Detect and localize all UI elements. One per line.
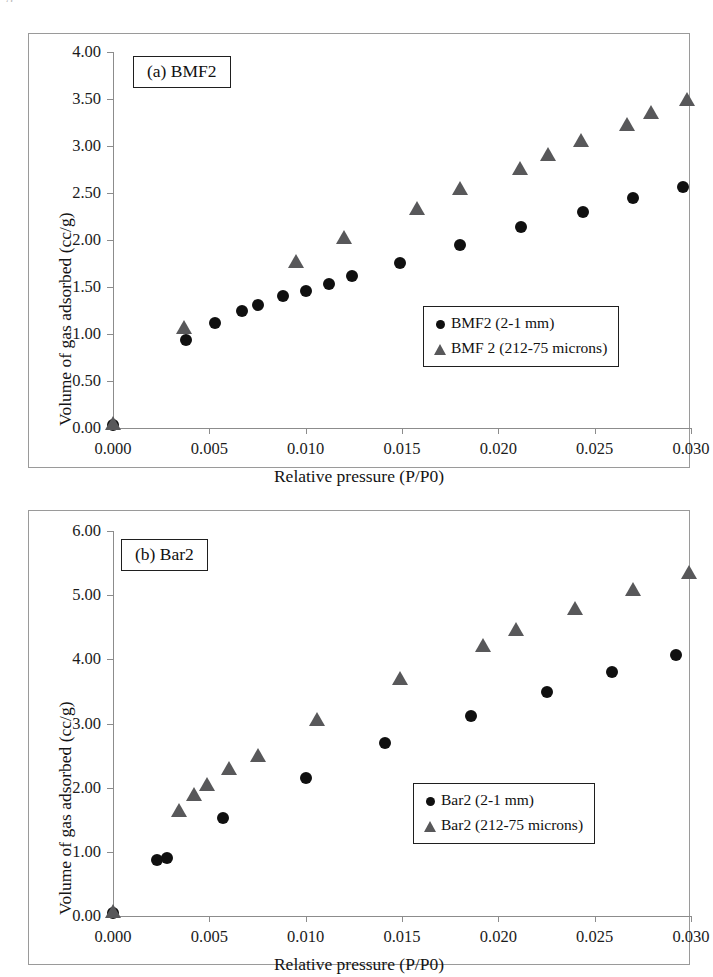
x-tick-label-a-6: 0.030	[651, 441, 713, 458]
x-tick-b-4	[498, 916, 499, 922]
x-tick-label-a-0: 0.000	[73, 441, 153, 458]
triangle-glyph-icon	[424, 821, 436, 832]
circle-glyph-icon	[426, 797, 435, 806]
x-tick-label-a-3: 0.015	[362, 441, 442, 458]
x-tick-label-b-0: 0.000	[73, 929, 153, 946]
x-tick-b-2	[306, 916, 307, 922]
y-tick-label-b-4: 4.00	[43, 651, 101, 668]
data-point-a-s0	[323, 278, 335, 290]
data-point-a-s1	[452, 181, 468, 195]
legend-b: Bar2 (2-1 mm)Bar2 (212-75 microns)	[413, 783, 595, 844]
y-tick-b-2	[107, 788, 113, 789]
legend-item-a-0: BMF2 (2-1 mm)	[432, 312, 607, 334]
x-tick-a-2	[306, 428, 307, 434]
data-point-b-s0	[606, 666, 618, 678]
legend-label-b-1: Bar2 (212-75 microns)	[441, 814, 583, 836]
legend-a: BMF2 (2-1 mm)BMF 2 (212-75 microns)	[423, 306, 619, 367]
data-point-a-s0	[209, 317, 221, 329]
data-point-b-s1	[221, 761, 237, 775]
triangle-glyph-icon	[434, 344, 446, 355]
y-tick-b-1	[107, 852, 113, 853]
data-point-b-s1	[105, 904, 121, 918]
data-point-a-s1	[409, 201, 425, 215]
data-point-a-s0	[346, 270, 358, 282]
data-point-b-s1	[392, 671, 408, 685]
y-tick-a-1	[107, 381, 113, 382]
chart-panel-a: 0.000.501.001.502.002.503.003.504.000.00…	[28, 33, 690, 468]
data-point-b-s0	[161, 852, 173, 864]
y-tick-a-2	[107, 334, 113, 335]
data-point-a-s1	[176, 320, 192, 334]
y-tick-a-8	[107, 52, 113, 53]
data-point-b-s1	[199, 777, 215, 791]
circle-marker-icon	[432, 312, 448, 334]
x-tick-label-b-3: 0.015	[362, 929, 442, 946]
y-tick-label-b-5: 5.00	[43, 587, 101, 604]
data-point-b-s1	[309, 712, 325, 726]
data-point-a-s1	[679, 92, 695, 106]
y-tick-b-6	[107, 531, 113, 532]
x-tick-label-a-4: 0.020	[458, 441, 538, 458]
plot-area-b: 0.001.002.003.004.005.006.000.0000.0050.…	[29, 511, 689, 964]
data-point-a-s0	[454, 239, 466, 251]
data-point-a-s0	[277, 290, 289, 302]
x-tick-b-3	[402, 916, 403, 922]
y-axis-line-b	[113, 531, 114, 916]
x-tick-b-6	[691, 916, 692, 922]
x-tick-a-5	[595, 428, 596, 434]
x-tick-a-4	[498, 428, 499, 434]
x-tick-a-3	[402, 428, 403, 434]
x-tick-label-b-6: 0.030	[651, 929, 713, 946]
page-top-text-fragment: g	[0, 0, 713, 2]
triangle-marker-icon	[432, 337, 448, 359]
legend-item-a-1: BMF 2 (212-75 microns)	[432, 337, 607, 359]
y-tick-b-4	[107, 659, 113, 660]
x-tick-label-a-5: 0.025	[555, 441, 635, 458]
y-tick-label-a-8: 4.00	[43, 44, 101, 61]
data-point-b-s0	[379, 737, 391, 749]
data-point-a-s0	[236, 305, 248, 317]
y-tick-label-a-7: 3.50	[43, 91, 101, 108]
panel-label-box-a: (a) BMF2	[133, 56, 231, 88]
y-tick-a-5	[107, 193, 113, 194]
legend-label-a-0: BMF2 (2-1 mm)	[451, 312, 554, 334]
data-point-b-s1	[567, 601, 583, 615]
y-tick-a-4	[107, 240, 113, 241]
y-tick-a-3	[107, 287, 113, 288]
data-point-a-s1	[643, 105, 659, 119]
data-point-b-s1	[250, 748, 266, 762]
x-tick-a-1	[209, 428, 210, 434]
circle-glyph-icon	[436, 320, 445, 329]
x-tick-label-b-1: 0.005	[169, 929, 249, 946]
data-point-b-s0	[670, 649, 682, 661]
data-point-a-s0	[252, 299, 264, 311]
data-point-a-s1	[573, 133, 589, 147]
x-tick-label-b-5: 0.025	[555, 929, 635, 946]
y-tick-a-7	[107, 99, 113, 100]
x-tick-b-1	[209, 916, 210, 922]
data-point-a-s1	[619, 117, 635, 131]
legend-label-a-1: BMF 2 (212-75 microns)	[451, 337, 607, 359]
y-tick-label-a-5: 2.50	[43, 185, 101, 202]
y-axis-title-a: Volume of gas adsorbed (cc/g)	[55, 212, 76, 426]
x-tick-label-b-2: 0.010	[266, 929, 346, 946]
y-tick-b-5	[107, 595, 113, 596]
y-tick-a-6	[107, 146, 113, 147]
data-point-a-s0	[180, 334, 192, 346]
legend-label-b-0: Bar2 (2-1 mm)	[441, 789, 534, 811]
y-axis-line-a	[113, 52, 114, 428]
y-axis-title-b: Volume of gas adsorbed (cc/g)	[55, 701, 76, 915]
data-point-b-s0	[465, 710, 477, 722]
x-tick-label-b-4: 0.020	[458, 929, 538, 946]
legend-item-b-1: Bar2 (212-75 microns)	[422, 814, 583, 836]
y-tick-b-3	[107, 724, 113, 725]
y-tick-label-a-6: 3.00	[43, 138, 101, 155]
x-axis-title-a: Relative pressure (P/P0)	[29, 466, 689, 487]
panel-label-box-b: (b) Bar2	[121, 539, 208, 571]
y-tick-label-b-6: 6.00	[43, 523, 101, 540]
data-point-a-s0	[300, 285, 312, 297]
x-axis-title-b: Relative pressure (P/P0)	[29, 954, 689, 975]
data-point-a-s0	[627, 192, 639, 204]
x-tick-a-6	[691, 428, 692, 434]
data-point-b-s1	[681, 565, 697, 579]
